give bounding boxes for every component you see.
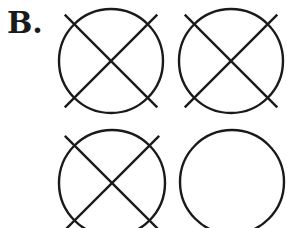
empty-circle-bottom-right — [180, 130, 284, 228]
circle-icon — [180, 130, 284, 228]
crossed-circle-top-right — [179, 9, 283, 113]
crossed-circle-bottom-left — [59, 130, 165, 228]
circle-grid — [0, 0, 287, 228]
crossed-circle-top-left — [59, 9, 163, 113]
